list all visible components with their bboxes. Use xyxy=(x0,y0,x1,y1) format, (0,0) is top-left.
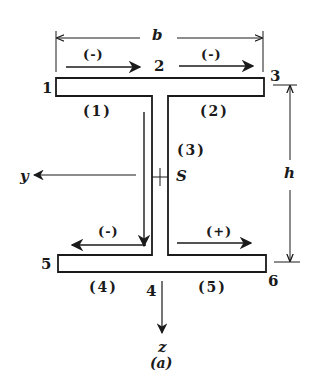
sign-bottom-left: (-) xyxy=(98,225,119,238)
point-4-label: 4 xyxy=(146,284,156,299)
segment-4-label: (4) xyxy=(89,280,118,294)
point-5-label: 5 xyxy=(41,257,51,272)
point-2-label: 2 xyxy=(154,59,164,74)
segment-3-label: (3) xyxy=(177,143,206,157)
sign-top-right: (-) xyxy=(201,48,222,61)
figure-caption: (a) xyxy=(150,356,172,370)
segment-5-label: (5) xyxy=(198,280,227,294)
point-6-label: 6 xyxy=(268,274,278,289)
z-axis-label: z xyxy=(158,340,167,355)
y-axis-label: y xyxy=(20,169,29,184)
sign-bottom-right: (+) xyxy=(206,225,232,238)
shear-center-marker xyxy=(152,168,168,186)
point-3-label: 3 xyxy=(270,69,280,84)
segment-1-label: (1) xyxy=(83,104,112,118)
sign-top-left: (-) xyxy=(83,48,104,61)
point-1-label: 1 xyxy=(42,81,52,96)
width-label: b xyxy=(152,28,163,43)
shear-center-label: S xyxy=(176,169,187,184)
height-label: h xyxy=(284,166,295,181)
segment-2-label: (2) xyxy=(200,104,229,118)
